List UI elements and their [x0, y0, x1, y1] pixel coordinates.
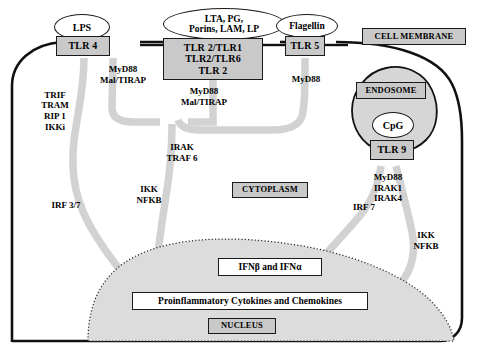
receptor-tlr5: TLR 5: [285, 36, 325, 56]
receptor-tlr4: TLR 4: [56, 36, 110, 56]
label-nucleus: NUCLEUS: [208, 318, 276, 334]
ligand-flagellin: Flagellin: [276, 14, 338, 38]
output-cytokines: Proinflammatory Cytokines and Chemokines: [132, 292, 368, 310]
adaptor-tlr5-myd88: MyD88: [282, 72, 330, 86]
ligand-cpg: CpG: [372, 112, 414, 138]
adaptors-tlr2: MyD88 Mal/TIRAP: [166, 84, 242, 110]
label-cytoplasm: CYTOPLASM: [232, 182, 308, 198]
node-irf7: IRF 7: [344, 200, 384, 214]
node-ikk-nfkb-left: IKK NFKB: [128, 182, 170, 208]
ligand-tlr2-set: LTA, PG, Porins, LAM, LP: [163, 8, 285, 40]
node-irf37: IRF 3/7: [40, 198, 92, 212]
receptor-tlr9: TLR 9: [370, 140, 414, 160]
node-ikk-nfkb-right: IKK NFKB: [404, 228, 448, 254]
tlr-signaling-diagram: LPS LTA, PG, Porins, LAM, LP Flagellin C…: [0, 0, 486, 348]
label-endosome: ENDOSOME: [356, 82, 426, 99]
adaptors-tlr4-trif: TRIF TRAM RIP 1 IKKi: [30, 86, 80, 136]
output-interferons: IFNβ and IFNα: [218, 258, 322, 276]
node-irak-traf6: IRAK TRAF 6: [154, 140, 210, 166]
label-cell-membrane: CELL MEMBRANE: [362, 28, 466, 45]
receptor-tlr2-complex: TLR 2/TLR1 TLR2/TLR6 TLR 2: [163, 38, 263, 80]
adaptors-tlr4-myd88: MyD88 Mal/TIRAP: [86, 62, 160, 88]
